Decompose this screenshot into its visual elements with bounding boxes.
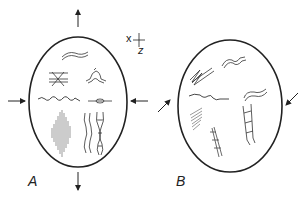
rotated-shear-icon <box>190 68 214 85</box>
arrow-oblique-right-icon <box>286 93 298 105</box>
diagram-canvas <box>0 0 301 199</box>
stretched-lens-icon <box>52 110 70 157</box>
folded-vein-icon <box>62 52 88 60</box>
axis-label-z: z <box>138 44 144 56</box>
boudin-neck-icon <box>86 68 106 83</box>
conjugate-shear-icon <box>49 72 68 86</box>
axis-label-x: x <box>126 32 132 44</box>
rotated-vein-icon <box>210 127 222 157</box>
ptygmatic-fold-icon <box>38 97 80 101</box>
rotated-lens-icon <box>190 108 202 130</box>
panel-label-b: B <box>176 173 185 189</box>
rotated-chain-icon <box>243 104 255 145</box>
chain-vein-icon <box>96 112 103 155</box>
boudin-icon <box>88 99 112 103</box>
panel-label-a: A <box>28 173 37 189</box>
rotated-ptygmatic-icon <box>189 94 229 100</box>
rotated-boudin-icon <box>244 89 267 101</box>
arrow-oblique-left-icon <box>158 100 170 112</box>
vertical-vein-icon <box>84 113 92 153</box>
strain-ellipse-a <box>29 37 127 167</box>
panel-b <box>158 40 298 172</box>
rotated-fold-icon <box>222 57 246 68</box>
